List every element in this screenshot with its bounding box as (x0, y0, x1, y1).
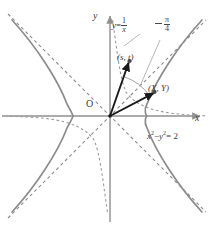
origin-label: O (86, 99, 93, 109)
hyp-rhs: = 2 (166, 131, 178, 141)
reciprocal-denominator: x (121, 25, 127, 34)
point-marker-origin (108, 114, 112, 118)
reciprocal-curve-branch-q3 (6, 116, 107, 212)
angle-denominator: 4 (164, 24, 170, 33)
asymptote-negative-slope (8, 14, 206, 212)
hyperbola-diagram: y=1x π4 (s, t) (X, Y) O x y x2−y2= 2 (0, 0, 211, 225)
leader-line-reciprocal-label (124, 34, 140, 46)
x-axis-label: x (195, 113, 199, 123)
y-axis-label: y (93, 11, 97, 21)
leader-line-angle-label (140, 40, 160, 86)
point-label-st: (s, t) (117, 53, 134, 62)
angle-numerator: π (164, 16, 170, 24)
angle-fraction: π4 (164, 16, 170, 34)
reciprocal-numerator: 1 (121, 17, 127, 25)
reciprocal-fraction: 1x (121, 17, 127, 35)
diagram-canvas (0, 0, 211, 225)
angle-label: π4 (155, 16, 170, 34)
angle-leader-dash (155, 23, 162, 24)
asymptote-positive-slope (8, 20, 206, 218)
point-label-xy: (X, Y) (148, 84, 169, 93)
hyperbola-equation-label: x2−y2= 2 (147, 130, 178, 141)
axis-group (2, 16, 200, 222)
reciprocal-curve-label: y=1x (112, 17, 127, 35)
